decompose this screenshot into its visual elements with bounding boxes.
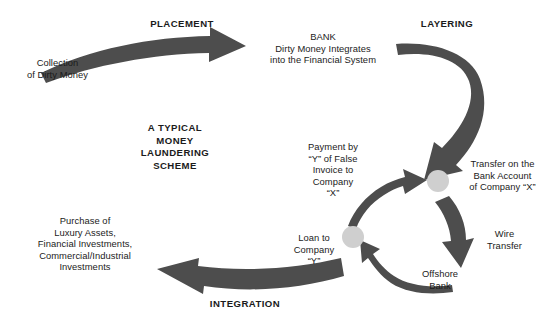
node-label-wire-transfer: Wire Transfer (477, 228, 532, 251)
stage-label-layering: LAYERING (392, 18, 502, 31)
node-dot-transfer (427, 170, 449, 192)
stage-label-integration: INTEGRATION (180, 298, 310, 311)
stage-label-placement: PLACEMENT (122, 18, 242, 31)
diagram-title: A TYPICAL MONEY LAUNDERING SCHEME (110, 122, 240, 172)
node-label-loan: Loan to Company “Y” (283, 232, 345, 267)
node-dot-loan (342, 226, 364, 248)
node-label-collection: Collection of Dirty Money (5, 57, 110, 80)
node-label-purchase: Purchase of Luxury Assets, Financial Inv… (19, 215, 151, 273)
money-laundering-diagram: PLACEMENT LAYERING INTEGRATION A TYPICAL… (0, 0, 545, 324)
wire-transfer-arrow (435, 196, 474, 268)
node-label-offshore-bank: Offshore Bank (409, 268, 471, 291)
node-label-payment: Payment by “Y” of False Invoice to Compa… (299, 141, 367, 199)
node-label-transfer: Transfer on the Bank Account of Company … (460, 158, 545, 193)
node-label-bank: BANK Dirty Money Integrates into the Fin… (258, 31, 388, 66)
